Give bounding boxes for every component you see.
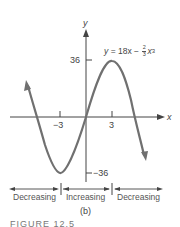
function-graph-figure: y x 36 −36 −3 3 y = 18x − 23x3 Decreasin… <box>0 0 180 227</box>
y-axis-label: y <box>83 19 88 28</box>
subfigure-label: (b) <box>80 207 91 216</box>
function-equation: y = 18x − 23x3 <box>104 45 155 57</box>
x-axis-label: x <box>167 113 172 122</box>
y-tick-label-neg36: −36 <box>93 169 108 178</box>
y-axis-arrow-icon <box>83 29 89 37</box>
interval-label-middle: Increasing <box>66 193 105 202</box>
interval-label-left: Decreasing <box>13 193 56 202</box>
interval-label-right: Decreasing <box>117 193 160 202</box>
x-tick-label-3: 3 <box>109 121 114 130</box>
x-tick-label-neg3: −3 <box>53 121 63 130</box>
figure-caption: FIGURE 12.5 <box>10 219 75 227</box>
y-tick-label-36: 36 <box>70 56 80 65</box>
fraction: 23 <box>142 45 146 57</box>
curve-right-arrow-icon <box>141 151 148 161</box>
x-axis-arrow-icon <box>157 114 165 120</box>
